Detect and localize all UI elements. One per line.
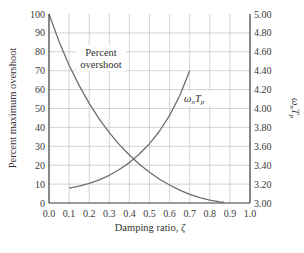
y-tick-label: 0 bbox=[40, 198, 45, 209]
y-tick-label: 70 bbox=[35, 65, 45, 76]
y2-tick-label: 4.60 bbox=[254, 46, 272, 57]
y2-tick-label: 3.20 bbox=[254, 179, 272, 190]
y-tick-label: 50 bbox=[35, 103, 45, 114]
x-axis-label: Damping ratio, ζ bbox=[115, 222, 186, 234]
y-tick-label: 30 bbox=[35, 141, 45, 152]
x-tick-label: 0.5 bbox=[143, 208, 156, 219]
y2-axis-label: ωnTp bbox=[288, 98, 301, 119]
annotation-line-2: overshoot bbox=[80, 59, 121, 70]
x-tick-label: 0.6 bbox=[163, 208, 176, 219]
subscript-p: p bbox=[288, 114, 296, 119]
annotation-line-1: Percent bbox=[85, 47, 117, 58]
x-tick-label: 0.8 bbox=[204, 208, 217, 219]
x-tick-label: 0.4 bbox=[123, 208, 136, 219]
y2-tick-label: 3.00 bbox=[254, 198, 272, 209]
x-tick-labels: 0.00.10.20.30.40.50.60.70.80.91.0 bbox=[43, 208, 257, 219]
y2-tick-labels: 3.003.203.403.603.804.004.204.404.604.80… bbox=[254, 9, 272, 209]
y2-tick-label: 3.80 bbox=[254, 122, 272, 133]
y2-tick-label: 3.60 bbox=[254, 141, 272, 152]
y-axis-label: Percent maximum overshoot bbox=[7, 48, 18, 169]
y-tick-label: 90 bbox=[35, 27, 45, 38]
subscript-p: p bbox=[200, 98, 205, 106]
omega-symbol: ω bbox=[290, 98, 301, 105]
y2-tick-label: 5.00 bbox=[254, 9, 272, 20]
x-tick-label: 0.1 bbox=[63, 208, 76, 219]
grid-lines bbox=[49, 14, 250, 203]
y-tick-label: 60 bbox=[35, 84, 45, 95]
y2-tick-label: 3.40 bbox=[254, 160, 272, 171]
x-tick-label: 0.0 bbox=[43, 208, 56, 219]
y-tick-label: 10 bbox=[35, 179, 45, 190]
x-tick-label: 1.0 bbox=[244, 208, 257, 219]
y2-tick-label: 4.00 bbox=[254, 103, 272, 114]
y2-tick-label: 4.80 bbox=[254, 27, 272, 38]
y2-tick-label: 4.20 bbox=[254, 84, 272, 95]
y-tick-label: 100 bbox=[30, 9, 45, 20]
x-tick-label: 0.3 bbox=[103, 208, 116, 219]
wntp-annotation: ωnTp bbox=[182, 91, 212, 106]
damping-ratio-chart: 0.00.10.20.30.40.50.60.70.80.91.0 010203… bbox=[0, 0, 304, 253]
x-tick-label: 0.7 bbox=[183, 208, 196, 219]
y-tick-labels: 0102030405060708090100 bbox=[30, 9, 45, 209]
zeta-symbol: ζ bbox=[181, 222, 186, 234]
x-tick-label: 0.9 bbox=[224, 208, 237, 219]
x-tick-label: 0.2 bbox=[83, 208, 96, 219]
y-tick-label: 40 bbox=[35, 122, 45, 133]
percent-overshoot-annotation: Percent overshoot bbox=[76, 45, 126, 71]
y2-tick-label: 4.40 bbox=[254, 65, 272, 76]
y-tick-label: 20 bbox=[35, 160, 45, 171]
y-tick-label: 80 bbox=[35, 46, 45, 57]
omega-symbol: ω bbox=[184, 93, 191, 104]
x-axis-label-text: Damping ratio, bbox=[115, 222, 181, 233]
